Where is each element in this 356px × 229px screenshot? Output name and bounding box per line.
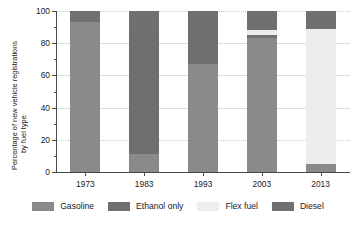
y-tick-label: 60 [41, 70, 50, 80]
bar-segment-diesel [188, 11, 218, 27]
bar-segment-diesel [247, 11, 277, 30]
chart-title-cutoff [150, 0, 356, 6]
bar-1973 [70, 11, 100, 172]
bar-segment-gasoline [247, 38, 277, 172]
y-tick-mark [52, 43, 56, 44]
y-tick-label: 100 [36, 6, 50, 16]
legend-item-gasoline: Gasoline [32, 201, 94, 211]
legend-swatch-icon [197, 202, 219, 211]
y-tick-mark [52, 140, 56, 141]
y-tick-minor [54, 124, 57, 125]
x-tick-label: 2013 [311, 179, 330, 189]
y-axis-title-line2: by fuel type [19, 115, 28, 153]
bar-2003 [247, 11, 277, 172]
y-axis-title-line1: Percentage of new vehicle registrations [10, 41, 19, 170]
bar-2013 [306, 11, 336, 172]
y-tick-label: 80 [41, 38, 50, 48]
x-tick-mark [144, 172, 145, 176]
legend-label: Ethanol only [136, 201, 183, 211]
legend-item-diesel: Diesel [272, 201, 324, 211]
bar-segment-diesel [70, 11, 100, 22]
legend-item-ethanol-only: Ethanol only [108, 201, 183, 211]
y-tick-minor [54, 156, 57, 157]
stacked-bar-chart: Percentage of new vehicle registrations … [0, 0, 356, 229]
bar-segment-diesel [306, 11, 336, 29]
bar-1993 [188, 11, 218, 172]
legend-item-flex-fuel: Flex fuel [197, 201, 257, 211]
y-tick-mark [52, 172, 56, 173]
bar-segment-gasoline [129, 154, 159, 172]
y-tick-mark [52, 75, 56, 76]
bar-segment-gasoline [306, 164, 336, 172]
y-tick-minor [54, 59, 57, 60]
legend-label: Gasoline [60, 201, 94, 211]
legend-swatch-icon [32, 202, 54, 211]
bar-segment-ethanol-only [188, 27, 218, 64]
chart-legend: GasolineEthanol onlyFlex fuelDiesel [0, 197, 356, 215]
bar-segment-diesel [129, 11, 159, 25]
legend-label: Flex fuel [225, 201, 257, 211]
x-tick-label: 1973 [76, 179, 95, 189]
x-tick-mark [321, 172, 322, 176]
x-tick-mark [262, 172, 263, 176]
y-tick-mark [52, 11, 56, 12]
x-tick-label: 2003 [252, 179, 271, 189]
bar-segment-gasoline [188, 64, 218, 172]
x-tick-label: 1993 [194, 179, 213, 189]
legend-swatch-icon [272, 202, 294, 211]
bar-1983 [129, 11, 159, 172]
y-tick-label: 20 [41, 135, 50, 145]
x-tick-label: 1983 [135, 179, 154, 189]
y-tick-label: 0 [45, 167, 50, 177]
y-axis-title: Percentage of new vehicle registrations … [0, 0, 24, 180]
plot-area: 020406080100 19731983199320032013 [56, 11, 350, 173]
y-tick-mark [52, 108, 56, 109]
legend-swatch-icon [108, 202, 130, 211]
y-tick-minor [54, 92, 57, 93]
y-axis-line [56, 11, 57, 173]
bar-segment-ethanol-only [129, 26, 159, 155]
legend-label: Diesel [300, 201, 324, 211]
x-tick-mark [85, 172, 86, 176]
x-tick-mark [203, 172, 204, 176]
bar-segment-gasoline [70, 22, 100, 172]
bar-segment-flex-fuel [306, 29, 336, 164]
y-tick-label: 40 [41, 103, 50, 113]
y-tick-minor [54, 27, 57, 28]
